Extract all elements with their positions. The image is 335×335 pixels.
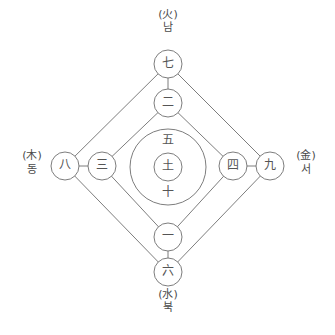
- node-label-east-outer: 八: [50, 159, 80, 172]
- cardinal-direction-south: 남: [143, 22, 193, 34]
- cardinal-direction-east: 동: [14, 164, 50, 177]
- node-label-north-outer: 六: [153, 265, 183, 278]
- node-label-north-inner: 一: [153, 230, 183, 243]
- center-label-bottom: 十: [153, 186, 183, 199]
- cardinal-label-north: (水) 북: [143, 289, 193, 313]
- cardinal-label-south: (火) 남: [143, 9, 193, 33]
- center-label-top: 五: [153, 134, 183, 147]
- node-label-east-inner: 三: [87, 159, 117, 172]
- cardinal-label-east: (木) 동: [14, 150, 50, 176]
- cardinal-label-west: (金) 서: [288, 150, 324, 176]
- cardinal-direction-north: 북: [143, 302, 193, 314]
- node-label-west-inner: 四: [218, 159, 248, 172]
- node-label-south-inner: 二: [153, 96, 183, 109]
- center-label-middle: 土: [153, 160, 183, 173]
- cardinal-element-east: (木): [14, 150, 50, 163]
- cardinal-element-north: (水): [143, 289, 193, 301]
- node-label-west-outer: 九: [255, 159, 285, 172]
- cardinal-element-south: (火): [143, 9, 193, 21]
- hetu-diagram: (火) 남 (水) 북 (木) 동 (金) 서 七 二 八 三 四 九 一 六 …: [0, 0, 335, 335]
- cardinal-element-west: (金): [288, 150, 324, 163]
- cardinal-direction-west: 서: [288, 164, 324, 177]
- node-label-south-outer: 七: [153, 57, 183, 70]
